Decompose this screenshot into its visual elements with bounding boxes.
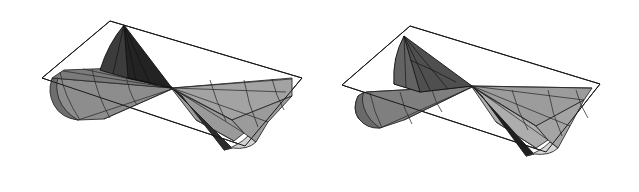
right-lobe xyxy=(172,78,292,150)
right-view-svg: Right viewpoint xyxy=(320,0,639,192)
upper-dark-fin-group xyxy=(394,36,472,92)
left-view-svg: Left viewpoint xyxy=(0,0,320,192)
right-lobe xyxy=(472,86,592,156)
figure-board: Left viewpoint Left viewpoint xyxy=(0,0,639,192)
plane-edge-back xyxy=(342,26,600,85)
figure-panel-right: Right viewpoint Right viewpoint xyxy=(320,0,639,192)
figure-panel-left: Left viewpoint Left viewpoint xyxy=(0,0,320,192)
